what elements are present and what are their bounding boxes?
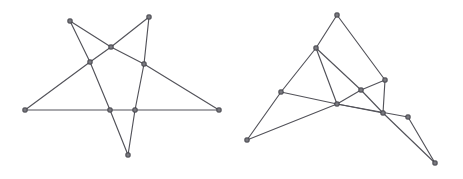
graph-edge (247, 104, 337, 140)
graph-edge (110, 110, 128, 155)
graph-edge (408, 117, 435, 163)
graph-vertex (147, 15, 151, 19)
graph-edge (316, 48, 361, 90)
graph-edge (111, 17, 149, 47)
right-figure-vertices (245, 13, 437, 165)
graph-edge (90, 62, 110, 110)
graph-edge (316, 48, 337, 104)
graph-edge (25, 62, 90, 110)
graph-drawing-svg (0, 0, 463, 179)
graph-edge (144, 17, 149, 64)
graph-edge (90, 47, 111, 62)
graph-edge (128, 110, 135, 155)
graph-vertex (133, 108, 137, 112)
graph-vertex (126, 153, 130, 157)
graph-edge (111, 47, 144, 64)
graph-edge (281, 48, 316, 92)
vertices-layer (23, 13, 437, 165)
graph-vertex (245, 138, 249, 142)
graph-edge (337, 90, 361, 104)
graph-vertex (383, 78, 387, 82)
graph-vertex (88, 60, 92, 64)
graph-vertex (142, 62, 146, 66)
graph-vertex (381, 111, 385, 115)
figure-canvas (0, 0, 463, 179)
graph-vertex (279, 90, 283, 94)
left-figure-vertices (23, 15, 221, 157)
graph-vertex (23, 108, 27, 112)
graph-vertex (108, 108, 112, 112)
graph-vertex (109, 45, 113, 49)
graph-edge (316, 15, 337, 48)
edges-layer (25, 15, 435, 163)
graph-vertex (359, 88, 363, 92)
graph-edge (135, 64, 144, 110)
right-figure-edges (247, 15, 435, 163)
graph-edge (361, 80, 385, 90)
graph-vertex (406, 115, 410, 119)
graph-edge (281, 92, 337, 104)
graph-edge (337, 104, 408, 117)
graph-vertex (68, 19, 72, 23)
graph-vertex (433, 161, 437, 165)
graph-vertex (335, 102, 339, 106)
graph-vertex (314, 46, 318, 50)
graph-edge (144, 64, 219, 110)
graph-edge (383, 113, 435, 163)
graph-edge (383, 80, 385, 113)
graph-vertex (217, 108, 221, 112)
left-figure-edges (25, 17, 219, 155)
graph-edge (337, 15, 385, 80)
graph-vertex (335, 13, 339, 17)
